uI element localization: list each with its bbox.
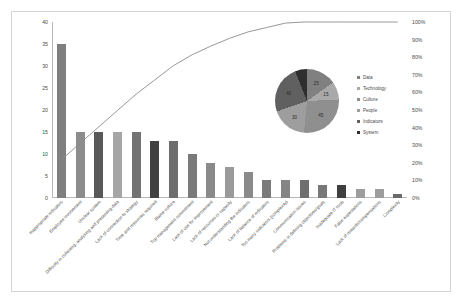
bar-slot: [108, 22, 127, 198]
secondary-axis-tick-label: 10%: [412, 177, 422, 183]
bar-slot: [145, 22, 164, 198]
y-axis-tick-label: 30: [42, 63, 48, 69]
bar[interactable]: [169, 141, 178, 198]
plot-area: 0510152025303540 0%10%20%30%40%50%60%70%…: [52, 22, 407, 198]
secondary-axis-tick-label: 0%: [412, 195, 420, 201]
bar-slot: [52, 22, 71, 198]
bar[interactable]: [76, 132, 85, 198]
secondary-axis-tick-label: 30%: [412, 142, 422, 148]
legend-item[interactable]: System: [357, 127, 432, 138]
legend-swatch-icon: [357, 76, 360, 79]
legend-item[interactable]: Culture: [357, 94, 432, 105]
legend-item-label: Culture: [363, 97, 378, 102]
legend-item[interactable]: People: [357, 105, 432, 116]
legend-swatch-icon: [357, 87, 360, 90]
bar[interactable]: [132, 132, 141, 198]
y-axis-tick-label: 10: [42, 151, 48, 157]
bar[interactable]: [393, 194, 402, 198]
secondary-axis-tick-label: 100%: [412, 19, 425, 25]
x-label-slot: Complexity: [388, 199, 407, 291]
legend-item-label: Indicators: [363, 119, 383, 124]
y-axis-tick-label: 25: [42, 85, 48, 91]
x-axis-labels: Inappropriate indicatorsEmployee involve…: [52, 199, 407, 291]
bar[interactable]: [150, 141, 159, 198]
pie-slice-label: 30: [292, 114, 297, 119]
pie-slice-label: 45: [318, 113, 323, 118]
bar[interactable]: [356, 189, 365, 198]
legend-item-label: Data: [363, 75, 373, 80]
pie-legend: DataTechnologyCulturePeopleIndicatorsSys…: [357, 72, 432, 138]
legend-swatch-icon: [357, 98, 360, 101]
bar[interactable]: [300, 180, 309, 198]
bar-slot: [239, 22, 258, 198]
bar-slot: [220, 22, 239, 198]
pie-slice-label: 15: [323, 92, 328, 97]
bar-series: [52, 22, 407, 198]
legend-swatch-icon: [357, 109, 360, 112]
bar[interactable]: [188, 154, 197, 198]
legend-swatch-icon: [357, 120, 360, 123]
legend-item[interactable]: Data: [357, 72, 432, 83]
bar[interactable]: [375, 189, 384, 198]
secondary-axis-tick-label: 90%: [412, 37, 422, 43]
bar[interactable]: [262, 180, 271, 198]
bar-slot: [89, 22, 108, 198]
y-axis-tick-label: 20: [42, 107, 48, 113]
legend-item-label: Technology: [363, 86, 386, 91]
secondary-axis-tick-label: 20%: [412, 160, 422, 166]
y-axis-tick-label: 5: [45, 173, 48, 179]
y-axis-tick-label: 15: [42, 129, 48, 135]
y-axis-tick-label: 0: [45, 195, 48, 201]
y-axis-tick-label: 40: [42, 19, 48, 25]
bar-slot: [71, 22, 90, 198]
bar[interactable]: [206, 163, 215, 198]
legend-item-label: People: [363, 108, 377, 113]
pie-disc: [275, 69, 339, 133]
bar[interactable]: [94, 132, 103, 198]
bar[interactable]: [337, 185, 346, 198]
pie-slice-label: 40: [286, 90, 291, 95]
bar-slot: [183, 22, 202, 198]
bar-slot: [127, 22, 146, 198]
bar[interactable]: [281, 180, 290, 198]
pie-chart: 2515453040: [275, 69, 339, 133]
bar-slot: [202, 22, 221, 198]
bar-slot: [164, 22, 183, 198]
bar[interactable]: [244, 172, 253, 198]
legend-item[interactable]: Indicators: [357, 116, 432, 127]
legend-swatch-icon: [357, 131, 360, 134]
bar[interactable]: [57, 44, 66, 198]
legend-item[interactable]: Technology: [357, 83, 432, 94]
bar[interactable]: [225, 167, 234, 198]
secondary-axis-tick-label: 80%: [412, 54, 422, 60]
y-axis-tick-label: 35: [42, 41, 48, 47]
legend-item-label: System: [363, 130, 378, 135]
bar[interactable]: [113, 132, 122, 198]
bar-slot: [258, 22, 277, 198]
pareto-chart-frame: 0510152025303540 0%10%20%30%40%50%60%70%…: [11, 11, 451, 292]
bar[interactable]: [318, 185, 327, 198]
pie-slice-label: 25: [314, 81, 319, 86]
